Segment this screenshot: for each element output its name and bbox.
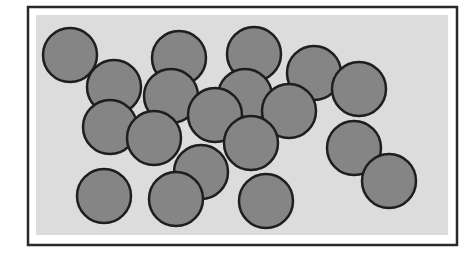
particle-circle	[77, 169, 131, 223]
particle-diagram	[0, 0, 470, 254]
particle-circle	[43, 28, 97, 82]
particle-circle	[224, 116, 278, 170]
particle-circle	[332, 62, 386, 116]
particle-circle	[149, 172, 203, 226]
particle-circle	[362, 154, 416, 208]
particle-circle	[239, 174, 293, 228]
particle-box-figure	[0, 0, 470, 254]
particle-circle	[127, 111, 181, 165]
